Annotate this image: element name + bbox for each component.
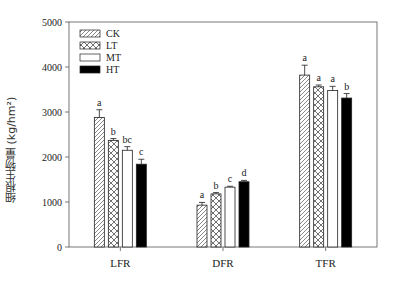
significance-letter: a	[316, 72, 321, 83]
chart: 细根生物量 (kg/hm²) 010002000300040005000LFRa…	[0, 0, 398, 282]
y-tick-label: 5000	[42, 17, 62, 28]
x-tick-label: TFR	[316, 257, 337, 269]
bar-lt-tfr	[314, 87, 324, 247]
legend-swatch-lt	[80, 42, 100, 49]
legend-label-lt: LT	[106, 40, 117, 51]
bar-lt-lfr	[108, 140, 118, 247]
bar-ht-dfr	[239, 182, 249, 247]
y-tick-label: 4000	[42, 62, 62, 73]
bar-ht-tfr	[342, 98, 352, 247]
y-tick-label: 3000	[42, 107, 62, 118]
legend-label-mt: MT	[106, 52, 121, 63]
bar-ck-dfr	[197, 205, 207, 247]
x-tick-label: DFR	[212, 257, 234, 269]
bar-ck-lfr	[94, 117, 104, 247]
y-tick-label: 2000	[42, 152, 62, 163]
significance-letter: a	[330, 73, 335, 84]
bar-ck-tfr	[300, 75, 310, 247]
significance-letter: d	[242, 167, 247, 178]
significance-letter: c	[228, 173, 233, 184]
legend-swatch-mt	[80, 54, 100, 61]
significance-letter: a	[97, 97, 102, 108]
significance-letter: b	[111, 126, 116, 137]
significance-letter: c	[139, 146, 144, 157]
bar-mt-dfr	[225, 187, 235, 247]
bar-lt-dfr	[211, 194, 221, 247]
y-axis-label: 细根生物量 (kg/hm²)	[2, 60, 22, 240]
legend-swatch-ck	[80, 30, 100, 37]
bar-mt-tfr	[328, 90, 338, 247]
y-tick-label: 0	[57, 242, 62, 253]
bar-ht-lfr	[136, 164, 146, 247]
significance-letter: b	[344, 81, 349, 92]
significance-letter: a	[302, 52, 307, 63]
bar-chart-svg: 010002000300040005000LFRabbccDFRabcdTFRa…	[0, 0, 398, 282]
y-tick-label: 1000	[42, 197, 62, 208]
legend-label-ck: CK	[106, 28, 121, 39]
significance-letter: bc	[123, 134, 133, 145]
x-tick-label: LFR	[110, 257, 131, 269]
significance-letter: b	[214, 180, 219, 191]
legend-swatch-ht	[80, 66, 100, 73]
significance-letter: a	[200, 189, 205, 200]
bar-mt-lfr	[122, 150, 132, 247]
legend-label-ht: HT	[106, 64, 119, 75]
plot-area: 010002000300040005000LFRabbccDFRabcdTFRa…	[42, 17, 377, 270]
